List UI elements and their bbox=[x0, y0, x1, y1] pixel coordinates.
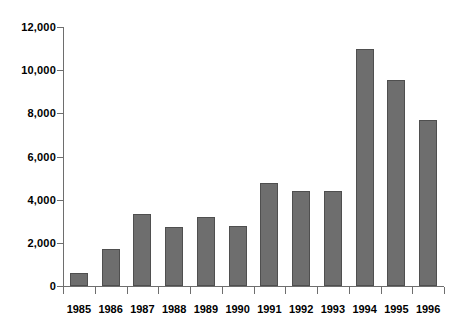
y-axis-tick-label: 10,000 bbox=[21, 65, 56, 76]
y-axis-tick-mark bbox=[57, 243, 64, 244]
y-axis-tick-label: 12,000 bbox=[21, 22, 56, 33]
x-axis-tick-label: 1992 bbox=[283, 303, 319, 315]
y-axis-tick-mark bbox=[57, 113, 64, 114]
x-axis-tick-label: 1986 bbox=[93, 303, 129, 315]
x-axis-tick-mark bbox=[63, 287, 64, 294]
bar bbox=[229, 226, 247, 286]
y-axis-tick-label: 4,000 bbox=[27, 195, 56, 206]
bar bbox=[419, 120, 437, 286]
y-axis-tick-mark bbox=[57, 70, 64, 71]
x-axis-tick-label: 1988 bbox=[156, 303, 192, 315]
bar bbox=[197, 217, 215, 286]
x-axis-tick-mark bbox=[222, 287, 223, 294]
x-axis-tick-label: 1995 bbox=[378, 303, 414, 315]
x-axis-tick-label: 1993 bbox=[315, 303, 351, 315]
x-axis-tick-mark bbox=[127, 287, 128, 294]
x-axis-tick-mark bbox=[95, 287, 96, 294]
x-axis-tick-mark bbox=[444, 287, 445, 294]
x-axis-tick-label: 1985 bbox=[61, 303, 97, 315]
plot-area: 02,0004,0006,0008,00010,00012,000 198519… bbox=[0, 0, 455, 333]
y-axis-tick-mark bbox=[57, 157, 64, 158]
y-axis-tick-label: 6,000 bbox=[27, 152, 56, 163]
x-axis-tick-mark bbox=[412, 287, 413, 294]
bar bbox=[70, 273, 88, 286]
y-axis-tick-label: 8,000 bbox=[27, 108, 56, 119]
x-axis-tick-mark bbox=[254, 287, 255, 294]
bar bbox=[165, 227, 183, 286]
x-axis-tick-mark bbox=[190, 287, 191, 294]
x-axis-tick-label: 1987 bbox=[124, 303, 160, 315]
x-axis-tick-label: 1994 bbox=[347, 303, 383, 315]
x-axis-tick-label: 1996 bbox=[410, 303, 446, 315]
x-axis-tick-mark bbox=[158, 287, 159, 294]
y-axis-tick-mark bbox=[57, 27, 64, 28]
bar bbox=[133, 214, 151, 286]
bar bbox=[102, 249, 120, 286]
x-axis-tick-label: 1990 bbox=[220, 303, 256, 315]
bar bbox=[324, 191, 342, 286]
bar bbox=[387, 80, 405, 286]
x-axis-tick-label: 1991 bbox=[251, 303, 287, 315]
x-axis-tick-mark bbox=[381, 287, 382, 294]
y-axis-tick-label: 2,000 bbox=[27, 238, 56, 249]
x-axis-tick-label: 1989 bbox=[188, 303, 224, 315]
y-axis-tick-mark bbox=[57, 200, 64, 201]
bar bbox=[356, 49, 374, 286]
x-axis-tick-mark bbox=[317, 287, 318, 294]
x-axis-tick-mark bbox=[285, 287, 286, 294]
y-axis-tick-label: 0 bbox=[50, 281, 56, 292]
x-axis-tick-mark bbox=[349, 287, 350, 294]
bar bbox=[292, 191, 310, 286]
bar-chart: 02,0004,0006,0008,00010,00012,000 198519… bbox=[0, 0, 455, 333]
bar bbox=[260, 183, 278, 286]
